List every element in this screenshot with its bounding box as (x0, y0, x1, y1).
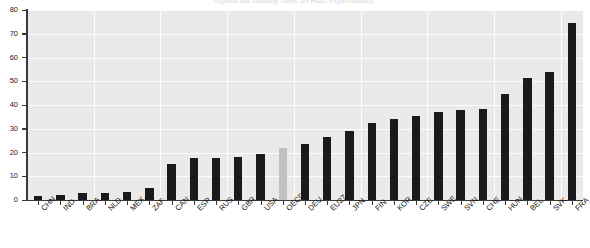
chart-title: Implied tax subsidy rates on R&D expendi… (0, 0, 586, 5)
y-tick-mark-80 (22, 10, 27, 11)
y-tick-label-30: 30 (0, 125, 18, 133)
y-tick-mark-10 (22, 176, 27, 177)
bar-usa[interactable] (256, 154, 264, 200)
x-tick-mark-hun (505, 201, 506, 205)
gridline-h-40 (27, 105, 583, 106)
x-tick-mark-esp (194, 201, 195, 205)
x-tick-mark-chn (38, 201, 39, 205)
y-tick-label-10: 10 (0, 172, 18, 180)
bar-can[interactable] (167, 164, 175, 200)
gridline-h-60 (27, 58, 583, 59)
y-tick-mark-0 (22, 200, 27, 201)
gridline-v-9 (227, 10, 228, 200)
bar-svn[interactable] (456, 110, 464, 200)
x-tick-mark-gbr (238, 201, 239, 205)
gridline-v-6 (160, 10, 161, 200)
gridline-h-30 (27, 129, 583, 130)
bar-hun[interactable] (501, 94, 509, 200)
gridline-v-15 (361, 10, 362, 200)
bar-fra[interactable] (568, 23, 576, 200)
y-tick-mark-50 (22, 81, 27, 82)
bar-gbr[interactable] (234, 157, 242, 200)
bar-cze[interactable] (412, 116, 420, 200)
x-tick-mark-rus (216, 201, 217, 205)
bar-svk[interactable] (545, 72, 553, 200)
gridline-v-3 (94, 10, 95, 200)
bar-che[interactable] (479, 109, 487, 200)
bar-bel[interactable] (523, 78, 531, 200)
bar-deu[interactable] (301, 144, 309, 200)
bar-jpn[interactable] (345, 131, 353, 200)
x-tick-mark-mex (127, 201, 128, 205)
x-tick-mark-zaf (149, 201, 150, 205)
bar-esp[interactable] (190, 158, 198, 200)
x-tick-mark-fin (372, 201, 373, 205)
y-tick-label-80: 80 (0, 6, 18, 14)
x-tick-mark-eu27 (327, 201, 328, 205)
x-tick-mark-che (483, 201, 484, 205)
y-tick-mark-40 (22, 105, 27, 106)
bar-bra[interactable] (78, 193, 86, 200)
y-tick-label-60: 60 (0, 54, 18, 62)
x-tick-mark-kor (394, 201, 395, 205)
y-tick-label-0: 0 (0, 196, 18, 204)
y-tick-mark-20 (22, 152, 27, 153)
bar-fin[interactable] (368, 123, 376, 200)
bar-rus[interactable] (212, 158, 220, 200)
x-tick-mark-oecd (283, 201, 284, 205)
x-tick-mark-svk (550, 201, 551, 205)
bar-oecd[interactable] (279, 148, 287, 200)
bar-kor[interactable] (390, 119, 398, 200)
bar-eu27[interactable] (323, 137, 331, 200)
bar-swe[interactable] (434, 112, 442, 200)
x-tick-mark-usa (261, 201, 262, 205)
x-tick-mark-bra (83, 201, 84, 205)
x-tick-mark-can (172, 201, 173, 205)
gridline-h-50 (27, 81, 583, 82)
y-tick-mark-30 (22, 128, 27, 129)
y-tick-label-40: 40 (0, 101, 18, 109)
bar-nld[interactable] (101, 193, 109, 200)
gridline-h-80 (27, 10, 583, 11)
x-tick-mark-cze (416, 201, 417, 205)
gridline-v-21 (494, 10, 495, 200)
x-tick-mark-svn (461, 201, 462, 205)
gridline-v-18 (427, 10, 428, 200)
gridline-v-12 (294, 10, 295, 200)
y-tick-mark-70 (22, 33, 27, 34)
x-tick-mark-deu (305, 201, 306, 205)
gridline-v-24 (561, 10, 562, 200)
bar-mex[interactable] (123, 192, 131, 200)
plot-area (27, 10, 583, 200)
x-tick-mark-nld (105, 201, 106, 205)
y-tick-mark-60 (22, 57, 27, 58)
x-tick-mark-fra (572, 201, 573, 205)
y-tick-label-20: 20 (0, 149, 18, 157)
gridline-h-70 (27, 34, 583, 35)
y-tick-label-70: 70 (0, 30, 18, 38)
bar-zaf[interactable] (145, 188, 153, 200)
y-tick-label-50: 50 (0, 77, 18, 85)
